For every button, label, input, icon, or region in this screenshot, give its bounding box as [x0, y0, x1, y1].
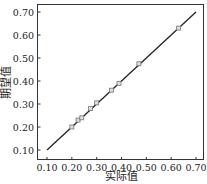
data-point: [88, 107, 92, 111]
y-tick-label: 0.40: [13, 76, 34, 87]
y-tick-label: 0.10: [13, 145, 34, 156]
y-axis-label: 期望值: [0, 66, 13, 99]
data-point: [80, 116, 84, 120]
y-tick-label: 0.20: [13, 122, 34, 133]
data-point: [117, 81, 121, 85]
x-tick-label: 0.20: [61, 162, 82, 173]
y-tick-label: 0.70: [13, 7, 34, 18]
y-tick-label: 0.50: [13, 53, 34, 64]
x-axis-label: 实际值: [105, 169, 138, 183]
data-point: [177, 26, 181, 30]
data-point: [70, 125, 74, 129]
data-point: [95, 101, 99, 105]
y-tick-label: 0.30: [13, 99, 34, 110]
data-point: [137, 62, 141, 66]
x-tick-label: 0.50: [136, 162, 157, 173]
x-tick-label: 0.70: [185, 162, 206, 173]
data-point: [110, 88, 114, 92]
x-tick-label: 0.10: [36, 162, 57, 173]
y-tick-label: 0.60: [13, 30, 34, 41]
fit-line: [47, 12, 196, 150]
x-tick-label: 0.60: [161, 162, 182, 173]
scatter-chart: 0.100.200.300.400.500.600.700.100.200.30…: [0, 0, 207, 184]
